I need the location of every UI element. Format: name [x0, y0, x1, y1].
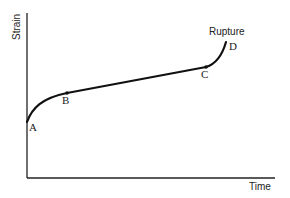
point-b-label: B [62, 94, 69, 106]
creep-curve-diagram: Strain Time A B C D Rupture [0, 0, 290, 198]
y-axis-label: Strain [11, 14, 22, 40]
x-axis-label: Time [249, 181, 271, 192]
point-a-label: A [29, 121, 37, 133]
point-d-label: D [229, 40, 237, 52]
rupture-annotation: Rupture [209, 26, 245, 37]
creep-curve [27, 42, 226, 122]
point-c-label: C [201, 68, 208, 80]
